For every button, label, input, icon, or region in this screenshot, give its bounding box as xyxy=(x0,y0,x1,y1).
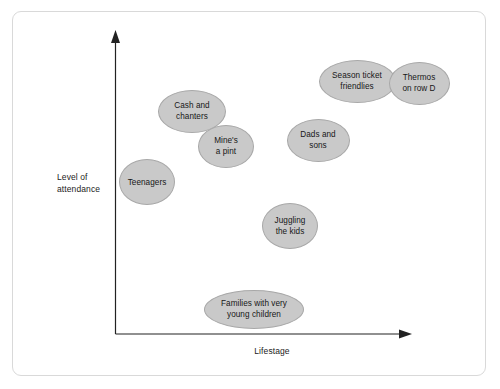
y-axis-label: Level of attendance xyxy=(57,171,113,195)
y-axis-arrowhead xyxy=(111,30,120,43)
data-point-bubble: Teenagers xyxy=(119,159,175,205)
x-axis-label: Lifestage xyxy=(232,345,312,357)
data-point-bubble: Juggling the kids xyxy=(262,203,318,249)
data-point-label: Dads and sons xyxy=(298,129,337,151)
data-point-label: Cash and chanters xyxy=(172,100,211,122)
plot-area: Level of attendance Lifestage TeenagersC… xyxy=(0,0,500,389)
data-point-bubble: Families with very young children xyxy=(204,290,304,329)
data-point-label: Families with very young children xyxy=(219,298,289,320)
data-point-label: Mine's a pint xyxy=(212,135,240,157)
data-point-label: Juggling the kids xyxy=(273,215,308,237)
data-point-label: Season ticket friendlies xyxy=(330,70,384,92)
data-point-label: Teenagers xyxy=(126,177,169,188)
data-point-bubble: Mine's a pint xyxy=(198,125,254,168)
data-point-bubble: Dads and sons xyxy=(287,119,350,162)
x-axis-arrowhead xyxy=(399,330,412,339)
data-point-bubble: Thermos on row D xyxy=(389,62,450,105)
data-point-bubble: Season ticket friendlies xyxy=(319,60,396,103)
data-point-label: Thermos on row D xyxy=(400,72,437,94)
bubble-chart-figure: Level of attendance Lifestage TeenagersC… xyxy=(0,0,500,389)
